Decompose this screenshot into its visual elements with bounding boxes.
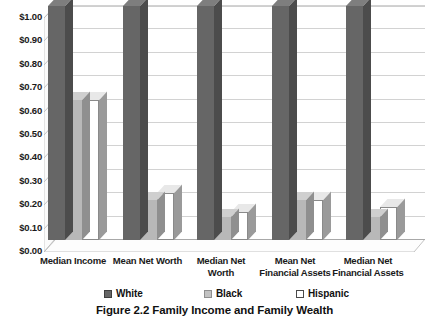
bar-side-face <box>363 0 371 240</box>
y-axis-tick-label: $0.40 <box>0 151 42 162</box>
y-axis-tick-label: $0.10 <box>0 222 42 233</box>
legend-item-black[interactable]: Black <box>204 288 242 299</box>
bar-group <box>346 6 407 252</box>
bar-front-face <box>123 6 140 240</box>
bar-front-face <box>346 6 363 240</box>
bar-white <box>48 6 65 240</box>
y-axis-tick-label: $0.50 <box>0 128 42 139</box>
bar-group <box>272 6 333 252</box>
bar-side-face <box>99 91 107 240</box>
x-axis-label: Median Net Financial Assets <box>326 255 410 278</box>
chart-bars-layer <box>44 6 425 252</box>
legend-label: Hispanic <box>308 288 349 299</box>
figure-container: $1.00$0.90$0.80$0.70$0.60$0.50$0.40$0.30… <box>0 0 429 322</box>
y-axis-tick-label: $0.90 <box>0 34 42 45</box>
legend-label: Black <box>216 288 242 299</box>
y-axis-tick-label: $1.00 <box>0 11 42 22</box>
legend-label: White <box>116 288 143 299</box>
bar-side-face <box>65 0 73 240</box>
bar-front-face <box>48 6 65 240</box>
bar-white <box>123 6 140 240</box>
x-axis-label: Median Income <box>31 255 115 267</box>
y-axis-tick-label: $0.60 <box>0 105 42 116</box>
bar-front-face <box>272 6 289 240</box>
legend-item-white[interactable]: White <box>104 288 143 299</box>
figure-caption: Figure 2.2 Family Income and Family Weal… <box>0 304 429 316</box>
bar-group <box>197 6 258 252</box>
x-axis-label: Mean Net Financial Assets <box>256 255 334 278</box>
x-axis-label: Median Net Worth <box>190 255 252 278</box>
y-axis-tick-label: $0.20 <box>0 198 42 209</box>
y-axis-tick-label: $0.30 <box>0 175 42 186</box>
bar-side-face <box>82 91 90 240</box>
bar-side-face <box>289 0 297 240</box>
bar-group <box>123 6 184 252</box>
y-axis-tick-label: $0.80 <box>0 58 42 69</box>
chart-legend: WhiteBlackHispanic <box>44 288 425 302</box>
x-axis-label: Mean Net Worth <box>105 255 191 267</box>
bar-white <box>272 6 289 240</box>
bar-white <box>197 6 214 240</box>
bar-side-face <box>174 185 182 240</box>
dark-gray-swatch <box>104 290 112 298</box>
bar-side-face <box>140 0 148 240</box>
bar-side-face <box>214 0 222 240</box>
white-swatch <box>296 290 304 298</box>
bar-front-face <box>197 6 214 240</box>
bar-white <box>346 6 363 240</box>
x-axis-category-labels: Median IncomeMean Net WorthMedian Net Wo… <box>44 255 425 289</box>
y-axis-tick-label: $0.70 <box>0 81 42 92</box>
legend-item-hispanic[interactable]: Hispanic <box>296 288 349 299</box>
bar-group <box>48 6 109 252</box>
light-gray-swatch <box>204 290 212 298</box>
chart-plot-area <box>44 6 425 251</box>
